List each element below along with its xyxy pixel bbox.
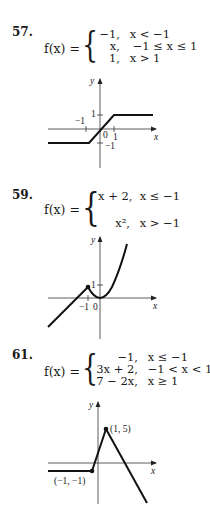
linear-falling-piece <box>106 429 147 503</box>
graph-57: y x 1 −1 0 1 −1 <box>48 76 159 168</box>
x-axis-label: x <box>152 301 158 311</box>
svg-text:0: 0 <box>103 130 108 140</box>
svg-text:−1: −1 <box>105 141 115 151</box>
x-axis-label: x <box>150 466 156 476</box>
linear-rising-piece <box>92 429 106 471</box>
point-label: (1, 5) <box>110 424 131 435</box>
graph-59: y x 1 −1 0 <box>48 235 158 339</box>
svg-text:−1: −1 <box>79 302 89 312</box>
svg-text:1: 1 <box>91 280 96 290</box>
y-axis-label: y <box>88 400 94 410</box>
closed-point <box>86 285 91 290</box>
svg-text:−1: −1 <box>75 116 85 126</box>
point-label: (−1, −1) <box>54 476 85 487</box>
svg-text:1: 1 <box>91 109 96 119</box>
closed-point <box>104 427 109 432</box>
x-axis-label: x <box>153 132 159 142</box>
y-axis-label: y <box>89 76 95 86</box>
closed-point <box>90 469 95 474</box>
svg-text:0: 0 <box>93 302 98 312</box>
graph-61: y x (1, 5) (−1, −1) <box>48 400 156 504</box>
graphs: y x 1 −1 0 1 −1 y x 1 −1 0 y x (1, 5) (−… <box>0 0 210 515</box>
y-axis-label: y <box>90 235 96 245</box>
